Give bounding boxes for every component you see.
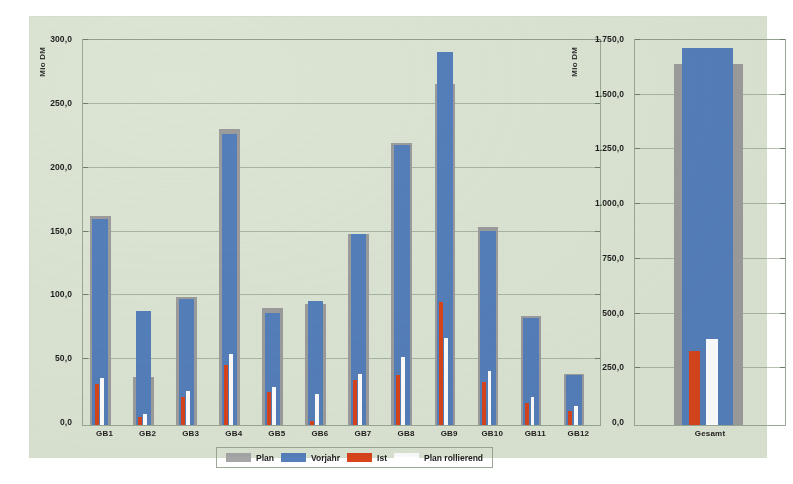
right-bar-groups bbox=[635, 40, 785, 425]
category-label: Gesamt bbox=[635, 429, 785, 438]
bar-plan-rollierend bbox=[531, 397, 535, 425]
category-label: GB12 bbox=[557, 429, 600, 438]
y-tick-label: 250,0 bbox=[50, 98, 72, 108]
legend-label: Ist bbox=[377, 453, 387, 463]
bar-ist bbox=[482, 382, 486, 425]
left-category-labels: GB1GB2GB3GB4GB5GB6GB7GB8GB9GB10GB11GB12 bbox=[83, 429, 600, 438]
left-y-axis-tick-labels: 300,0250,0200,0150,0100,050,00,0 bbox=[30, 17, 78, 402]
legend-swatch bbox=[226, 453, 251, 462]
legend-item: Plan rollierend bbox=[394, 453, 483, 463]
y-tick-label: 1.250,0 bbox=[595, 143, 624, 153]
bar-group bbox=[428, 40, 471, 425]
chart-screenshot: Mio DM 300,0250,0200,0150,0100,050,00,0 … bbox=[0, 0, 793, 484]
bar-plan-rollierend bbox=[706, 339, 718, 425]
bar-ist bbox=[525, 403, 529, 425]
bar-plan-rollierend bbox=[488, 371, 492, 425]
legend-item: Ist bbox=[347, 453, 387, 463]
legend-item: Vorjahr bbox=[281, 453, 340, 463]
bar-plan-rollierend bbox=[358, 374, 362, 425]
bar-group bbox=[635, 40, 785, 425]
y-tick-label: 0,0 bbox=[612, 417, 624, 427]
bar-ist bbox=[396, 375, 400, 425]
y-tick-label: 0,0 bbox=[60, 417, 72, 427]
y-tick-label: 750,0 bbox=[602, 253, 624, 263]
category-label: GB10 bbox=[471, 429, 514, 438]
bar-group bbox=[341, 40, 384, 425]
bar-ist bbox=[310, 421, 314, 425]
category-label: GB7 bbox=[341, 429, 384, 438]
y-tick-label: 1.000,0 bbox=[595, 198, 624, 208]
bar-group bbox=[385, 40, 428, 425]
bar-group bbox=[298, 40, 341, 425]
category-label: GB11 bbox=[514, 429, 557, 438]
category-label: GB8 bbox=[385, 429, 428, 438]
chart-panel: Mio DM 300,0250,0200,0150,0100,050,00,0 … bbox=[30, 17, 766, 457]
bar-ist bbox=[439, 302, 443, 425]
bar-plan-rollierend bbox=[143, 414, 147, 425]
bar-ist bbox=[689, 351, 700, 425]
legend-item: Plan bbox=[226, 453, 274, 463]
category-label: GB3 bbox=[169, 429, 212, 438]
bar-ist bbox=[224, 365, 228, 425]
right-y-axis-tick-labels: 1.750,01.500,01.250,01.000,0750,0500,025… bbox=[570, 17, 630, 402]
y-tick-label: 250,0 bbox=[602, 362, 624, 372]
bar-plan-rollierend bbox=[444, 338, 448, 425]
y-tick-label: 1.750,0 bbox=[595, 34, 624, 44]
legend-label: Vorjahr bbox=[311, 453, 340, 463]
bar-ist bbox=[267, 392, 271, 425]
legend-label: Plan bbox=[256, 453, 274, 463]
bar-ist bbox=[95, 384, 99, 425]
legend-swatch bbox=[281, 453, 306, 462]
bar-group bbox=[126, 40, 169, 425]
bar-plan-rollierend bbox=[186, 391, 190, 425]
bar-plan-rollierend bbox=[272, 387, 276, 425]
right-category-labels: Gesamt bbox=[635, 429, 785, 438]
bar-vorjahr bbox=[136, 311, 152, 425]
legend-swatch bbox=[394, 453, 419, 462]
bar-group bbox=[514, 40, 557, 425]
bar-group bbox=[83, 40, 126, 425]
y-tick-label: 150,0 bbox=[50, 226, 72, 236]
y-tick-label: 500,0 bbox=[602, 308, 624, 318]
y-tick-label: 1.500,0 bbox=[595, 89, 624, 99]
category-label: GB6 bbox=[298, 429, 341, 438]
bar-group bbox=[169, 40, 212, 425]
legend-label: Plan rollierend bbox=[424, 453, 483, 463]
category-label: GB1 bbox=[83, 429, 126, 438]
category-label: GB9 bbox=[428, 429, 471, 438]
category-label: GB5 bbox=[255, 429, 298, 438]
bar-plan-rollierend bbox=[574, 406, 578, 425]
y-tick-label: 50,0 bbox=[55, 353, 72, 363]
y-tick-label: 200,0 bbox=[50, 162, 72, 172]
y-tick-label: 300,0 bbox=[50, 34, 72, 44]
bar-ist bbox=[181, 397, 185, 425]
left-bar-groups bbox=[83, 40, 600, 425]
bar-plan-rollierend bbox=[100, 378, 104, 425]
bar-group bbox=[471, 40, 514, 425]
legend-swatch bbox=[347, 453, 372, 462]
bar-plan-rollierend bbox=[315, 394, 319, 425]
bar-ist bbox=[138, 417, 142, 425]
right-plot-area bbox=[634, 39, 786, 426]
bar-plan-rollierend bbox=[229, 354, 233, 425]
left-plot-area bbox=[82, 39, 601, 426]
category-label: GB2 bbox=[126, 429, 169, 438]
bar-group bbox=[255, 40, 298, 425]
bar-ist bbox=[353, 380, 357, 425]
y-tick-label: 100,0 bbox=[50, 289, 72, 299]
bar-plan-rollierend bbox=[401, 357, 405, 425]
category-label: GB4 bbox=[212, 429, 255, 438]
bar-ist bbox=[568, 411, 572, 425]
bar-group bbox=[212, 40, 255, 425]
chart-legend: PlanVorjahrIstPlan rollierend bbox=[216, 447, 493, 468]
